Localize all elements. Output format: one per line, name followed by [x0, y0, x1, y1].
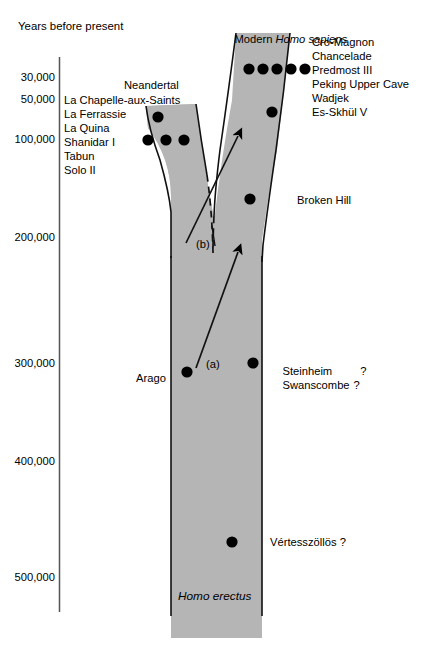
fossil-dot	[178, 134, 189, 145]
fossil-label-tabun: Tabun	[64, 150, 94, 164]
fossil-label-la-chapelle: La Chapelle-aux-Saints	[64, 94, 180, 108]
fossil-label-la-quina: La Quina	[64, 122, 109, 136]
y-tick-label-300000: 300,000	[0, 357, 55, 371]
y-tick-label-50000: 50,000	[0, 93, 55, 107]
steinheim-question-mark: ?	[360, 365, 366, 377]
fossil-dot	[257, 63, 268, 74]
arrow-label-b: (b)	[196, 238, 210, 252]
swanscombe-name: Swanscombe	[282, 379, 349, 391]
neandertal-branch-label: Neandertal	[124, 79, 179, 93]
fossil-dot	[142, 134, 153, 145]
fossil-dot	[152, 111, 163, 122]
y-tick-label-200000: 200,000	[0, 231, 55, 245]
y-tick-label-500000: 500,000	[0, 571, 55, 585]
fossil-label-shanidar: Shanidar I	[64, 136, 115, 150]
fossil-dot-vertesszollos	[226, 536, 237, 547]
fossil-label-peking-upper-cave: Peking Upper Cave	[312, 78, 409, 92]
fossil-label-la-ferrassie: La Ferrassie	[64, 108, 126, 122]
fossil-dot	[160, 134, 171, 145]
fossil-label-predmost: Predmost III	[312, 64, 372, 78]
fossil-label-solo: Solo II	[64, 164, 96, 178]
fossil-label-es-skhul: Es-Skhül V	[312, 106, 367, 120]
fossil-dot	[271, 63, 282, 74]
fossil-dot-arago	[181, 366, 192, 377]
fossil-dot	[243, 63, 254, 74]
fossil-dot	[299, 63, 310, 74]
fossil-label-swanscombe: Swanscombe?	[270, 365, 360, 406]
fossil-dot-steinheim	[247, 357, 258, 368]
fossil-label-broken-hill: Broken Hill	[297, 194, 351, 208]
fossil-label-chancelade: Chancelade	[312, 50, 372, 64]
evolution-diagram-figure: Years before present 30,000 50,000 100,0…	[0, 0, 423, 656]
fossil-label-cro-magnon: Cro-Magnon	[312, 36, 374, 50]
fossil-label-vertesszollos: Vértesszöllös ?	[270, 536, 346, 550]
homo-erectus-label: Homo erectus	[178, 590, 251, 604]
modern-prefix-text: Modern	[234, 33, 275, 45]
fossil-dot	[285, 63, 296, 74]
y-tick-label-30000: 30,000	[0, 71, 55, 85]
fossil-dot-broken-hill	[244, 193, 255, 204]
swanscombe-question-mark: ?	[354, 379, 360, 391]
y-tick-label-400000: 400,000	[0, 455, 55, 469]
fossil-label-arago: Arago	[136, 372, 166, 386]
axis-title: Years before present	[18, 20, 123, 34]
fossil-label-wadjek: Wadjek	[312, 92, 349, 106]
y-tick-label-100000: 100,000	[0, 133, 55, 147]
homo-erectus-trunk-shape	[171, 258, 262, 638]
arrow-label-a: (a)	[206, 358, 220, 372]
fossil-dot-es-skhul	[266, 106, 277, 117]
